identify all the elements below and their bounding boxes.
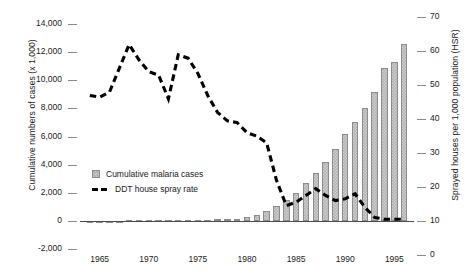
chart-legend: Cumulative malaria cases DDT house spray… (92, 166, 203, 196)
bar (303, 183, 309, 221)
y-axis-right-tick-label: 10 (430, 215, 470, 225)
y-axis-right-tick-label: 0 (430, 249, 470, 259)
x-axis-tick-label: 1995 (374, 254, 414, 264)
bar (362, 108, 368, 221)
y-axis-right-tick-label: 30 (430, 147, 470, 157)
x-axis-tick-label: 1990 (325, 254, 365, 264)
x-axis-tick-label: 1965 (80, 254, 120, 264)
y-axis-left-tick-mark (68, 80, 77, 81)
y-axis-left-tick-mark (68, 221, 77, 222)
y-axis-left-tick-mark (68, 108, 77, 109)
y-axis-right-tick-label: 50 (430, 79, 470, 89)
y-axis-right-tick-label: 70 (430, 11, 470, 21)
x-axis-baseline (80, 221, 414, 222)
y-axis-left-tick-label: 4,000 (10, 159, 62, 169)
y-axis-left-tick-label: -2,000 (10, 243, 62, 253)
y-axis-right-tick-mark (417, 153, 426, 154)
x-axis-tick-label: 1975 (178, 254, 218, 264)
bar (352, 122, 358, 220)
y-axis-left-tick-label: 10,000 (10, 74, 62, 84)
bar (273, 206, 279, 221)
chart-figure: Cumulative numbers of cases (x 1,000) Sp… (0, 0, 475, 279)
y-axis-right-tick-mark (417, 187, 426, 188)
legend-item-cumulative-malaria-cases: Cumulative malaria cases (92, 166, 203, 181)
bar (401, 44, 407, 221)
y-axis-left-tick-label: 14,000 (10, 18, 62, 28)
y-axis-right-tick-label: 40 (430, 113, 470, 123)
bar (391, 62, 397, 221)
bar (263, 211, 269, 221)
y-axis-right-tick-mark (417, 221, 426, 222)
bar (322, 162, 328, 221)
bar (332, 149, 338, 221)
bar (371, 92, 377, 221)
y-axis-right-tick-label: 60 (430, 45, 470, 55)
x-axis-tick-label: 1980 (227, 254, 267, 264)
x-axis-tick-label: 1970 (129, 254, 169, 264)
y-axis-left-tick-mark (68, 249, 77, 250)
y-axis-left-tick-label: 12,000 (10, 46, 62, 56)
y-axis-left-tick-mark (68, 137, 77, 138)
y-axis-right-tick-mark (417, 51, 426, 52)
y-axis-left-tick-mark (68, 24, 77, 25)
bar (342, 134, 348, 221)
y-axis-left-tick-mark (68, 52, 77, 53)
y-axis-left-title: Cumulative numbers of cases (x 1,000) (27, 15, 37, 215)
y-axis-right-tick-mark (417, 255, 426, 256)
y-axis-right-tick-label: 20 (430, 181, 470, 191)
y-axis-left-tick-label: 2,000 (10, 187, 62, 197)
bar-swatch-icon (92, 170, 100, 178)
bar (293, 193, 299, 221)
legend-item-ddt-house-spray-rate: DDT house spray rate (92, 181, 203, 196)
y-axis-left-tick-label: 6,000 (10, 131, 62, 141)
x-axis-tick-label: 1985 (276, 254, 316, 264)
y-axis-right-tick-mark (417, 85, 426, 86)
legend-label: DDT house spray rate (115, 184, 198, 194)
y-axis-left-tick-mark (68, 165, 77, 166)
y-axis-left-tick-label: 0 (10, 215, 62, 225)
bar (254, 215, 260, 221)
bar (283, 200, 289, 221)
bar (381, 68, 387, 221)
dashed-line-swatch-icon (92, 185, 109, 193)
legend-label: Cumulative malaria cases (106, 169, 203, 179)
y-axis-left-tick-label: 8,000 (10, 102, 62, 112)
y-axis-right-tick-mark (417, 119, 426, 120)
y-axis-left-tick-mark (68, 193, 77, 194)
y-axis-right-tick-mark (417, 17, 426, 18)
bar (313, 173, 319, 221)
